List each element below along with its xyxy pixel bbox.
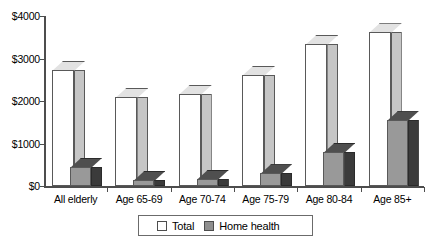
- x-tick: [107, 187, 108, 192]
- bar-front-face: [133, 180, 154, 186]
- legend-swatch-home-health-icon: [204, 221, 214, 231]
- y-tick: [40, 59, 44, 60]
- x-tick-label-0: All elderly: [44, 193, 107, 205]
- bar-side-face: [91, 167, 102, 186]
- y-tick: [40, 16, 44, 17]
- y-tick: [40, 186, 44, 187]
- bar-front-face: [323, 152, 344, 186]
- legend-label-home-health: Home health: [219, 220, 279, 232]
- legend-label-total: Total: [172, 220, 194, 232]
- y-axis-line: [44, 16, 46, 187]
- x-tick: [424, 187, 425, 192]
- bar-home-health-0: [70, 158, 102, 186]
- x-tick: [171, 187, 172, 192]
- legend-swatch-total-icon: [157, 221, 167, 231]
- bar-side-face: [344, 152, 355, 186]
- y-tick: [40, 144, 44, 145]
- x-tick-label-4: Age 80-84: [297, 193, 360, 205]
- bar-home-health-3: [260, 164, 292, 186]
- x-tick-label-2: Age 70-74: [171, 193, 234, 205]
- bar-front-face: [70, 167, 91, 186]
- bar-side-face: [154, 180, 165, 186]
- bar-front-face: [197, 179, 218, 186]
- x-tick: [361, 187, 362, 192]
- x-tick: [234, 187, 235, 192]
- x-tick: [297, 187, 298, 192]
- legend-item-total: Total: [157, 220, 194, 232]
- y-tick-label: $0: [2, 180, 40, 192]
- bar-home-health-1: [133, 171, 165, 186]
- bar-home-health-4: [323, 143, 355, 186]
- legend-item-home-health: Home health: [204, 220, 279, 232]
- y-tick-label: $3000: [2, 53, 40, 65]
- y-tick-label: $4000: [2, 10, 40, 22]
- x-tick-label-3: Age 75-79: [234, 193, 297, 205]
- bar-front-face: [387, 120, 408, 186]
- bar-home-health-5: [387, 111, 419, 186]
- bar-home-health-2: [197, 170, 229, 186]
- x-tick-label-1: Age 65-69: [107, 193, 170, 205]
- bar-side-face: [408, 120, 419, 186]
- y-tick-label: $2000: [2, 95, 40, 107]
- bar-front-face: [260, 173, 281, 186]
- y-tick: [40, 101, 44, 102]
- bar-side-face: [281, 173, 292, 186]
- bar-side-face: [218, 179, 229, 186]
- x-tick-label-5: Age 85+: [361, 193, 424, 205]
- y-tick-label: $1000: [2, 138, 40, 150]
- plot-area: $0$1000$2000$3000$4000 All elderlyAge 65…: [0, 0, 429, 205]
- bar-chart: $0$1000$2000$3000$4000 All elderlyAge 65…: [0, 0, 429, 243]
- chart-legend: Total Home health: [138, 215, 313, 236]
